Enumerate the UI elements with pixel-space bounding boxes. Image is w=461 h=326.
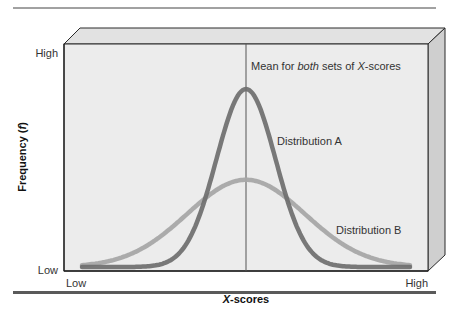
y-tick-high: High — [35, 47, 58, 59]
mean-annotation: Mean for both sets of X-scores — [251, 60, 401, 72]
figure: Mean for both sets of X-scores Distribut… — [0, 0, 461, 326]
y-tick-low: Low — [38, 264, 58, 276]
x-tick-low: Low — [66, 277, 86, 289]
distribution-b-label: Distribution B — [336, 224, 401, 236]
y-axis-title: Frequency (f) — [16, 122, 28, 192]
distribution-a-label: Distribution A — [277, 135, 342, 147]
bottom-rule — [13, 291, 436, 294]
chart-box-top-face — [64, 28, 445, 44]
x-tick-high: High — [405, 277, 428, 289]
x-axis-title: X-scores — [222, 293, 269, 305]
chart-box-side-face — [428, 28, 445, 271]
